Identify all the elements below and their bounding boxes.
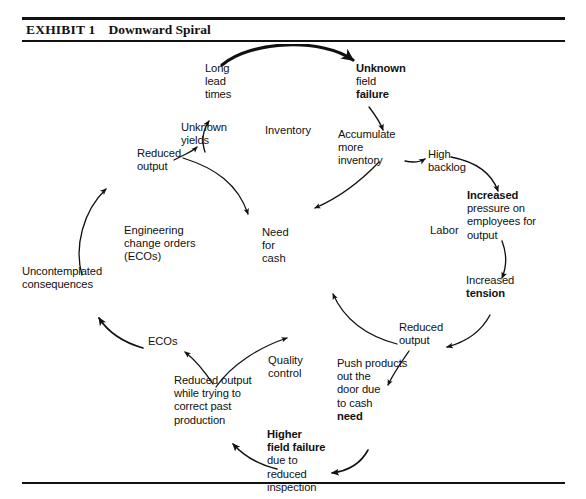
header-rule-bottom [22, 40, 565, 42]
footer-rule [22, 482, 565, 484]
exhibit-page: EXHIBIT 1Downward Spiral [0, 0, 586, 499]
hub-label-eco: Engineering change orders (ECOs) [124, 224, 196, 264]
hub-label-quality-control: Quality control [268, 354, 303, 380]
node-unknown-field-failure-line1: Unknown [356, 62, 406, 74]
hub-label-need-for-cash: Need for cash [262, 226, 289, 266]
node-accumulate-more-inventory: Accumulate more inventory [338, 128, 395, 168]
arrow-ecos-to-uncontemplated [99, 318, 143, 348]
node-unknown-yields: Unknown yields [181, 121, 227, 147]
arrow-fieldfailure-to-accumulate [369, 107, 383, 130]
node-reduced-output-eco: Reduced output [137, 147, 181, 173]
node-increased-tension-line2: tension [466, 287, 505, 299]
node-unknown-field-failure-line3: failure [356, 88, 389, 100]
exhibit-label: EXHIBIT 1 [26, 22, 95, 37]
node-increased-pressure: Increasedpressure on employees for outpu… [467, 189, 536, 242]
node-reduced-output-while-trying: Reduced output while trying to correct p… [174, 374, 252, 427]
arrow-accumulate-to-backlog [405, 159, 425, 162]
node-long-lead-times: Long lead times [205, 62, 231, 102]
node-push-products-rest: Push products out the door due to cash [337, 357, 407, 409]
node-increased-tension-line1: Increased [466, 274, 514, 286]
node-increased-tension: Increasedtension [466, 274, 514, 300]
node-ecos: ECOs [148, 335, 177, 348]
arrow-labor-to-needforcash [333, 294, 397, 344]
node-increased-pressure-line1: Increased [467, 189, 518, 201]
node-high-backlog: High backlog [428, 148, 466, 174]
arrow-uncontemplated-to-reducedoutput [79, 189, 106, 275]
node-higher-field-failure-bold: Higher field failure [267, 428, 325, 453]
arrow-eco-curve-to-center [183, 158, 248, 214]
node-uncontemplated-consequences: Uncontemplated consequences [22, 265, 102, 291]
arrow-tension-to-reducedoutput [447, 315, 490, 347]
exhibit-title: Downward Spiral [108, 22, 210, 37]
node-higher-field-failure-rest: due to reduced inspection [267, 454, 316, 492]
diagram-arrows-layer [0, 44, 586, 480]
node-reduced-output-labor: Reduced output [399, 321, 443, 347]
node-push-products-need: need [337, 410, 363, 422]
hub-label-inventory: Inventory [265, 124, 311, 137]
arrow-inventory-to-needforcash [315, 162, 379, 208]
downward-spiral-diagram: Inventory Labor Quality control Engineer… [0, 44, 586, 480]
node-unknown-field-failure-line2: field [356, 75, 376, 87]
arrow-push-to-higherfieldfailure [332, 450, 368, 473]
hub-label-labor: Labor [430, 224, 459, 237]
node-unknown-field-failure: Unknownfieldfailure [356, 62, 406, 102]
node-increased-pressure-rest: pressure on employees for output [467, 202, 536, 240]
exhibit-header: EXHIBIT 1Downward Spiral [26, 20, 211, 39]
arrow-pressure-to-tension [502, 241, 506, 278]
arrow-leadtimes-to-fieldfailure [222, 45, 353, 65]
node-push-products: Push products out the door due to cashne… [337, 357, 407, 423]
